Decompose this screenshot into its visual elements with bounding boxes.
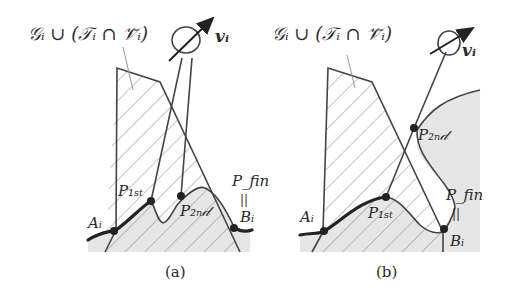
label-A-a: Aᵢ	[86, 214, 102, 232]
velocity-circle-a	[172, 27, 200, 53]
point-P2-a	[177, 192, 185, 200]
point-P2-b	[410, 124, 418, 132]
label-Pfin-a: P_fin	[231, 172, 269, 190]
hatched-set-b	[310, 68, 443, 252]
label-P2-a: P₂ₙ𝒹	[179, 202, 215, 220]
label-Pfin-b: P_fin	[445, 186, 483, 204]
point-P1-a	[147, 197, 155, 205]
figure-canvas: 𝒢ᵢ ∪ (𝒯ᵢ ∩ 𝒱̄ᵢ) vᵢ Aᵢ P₁ₛₜ P₂ₙ𝒹 P_fin ||…	[0, 0, 507, 300]
set-label-b: 𝒢ᵢ ∪ (𝒯ᵢ ∩ 𝒱̄ᵢ)	[272, 23, 392, 44]
velocity-label-a: vᵢ	[215, 26, 229, 46]
label-B-a: Bᵢ	[239, 208, 254, 226]
label-eq-a: ||	[240, 193, 248, 207]
label-P1-b: P₁ₛₜ	[367, 204, 393, 222]
label-P2-b: P₂ₙ𝒹	[417, 126, 453, 144]
caption-a: (a)	[165, 263, 186, 281]
label-B-b: Bᵢ	[449, 232, 464, 250]
point-B-a	[230, 224, 238, 232]
point-P1-b	[382, 193, 390, 201]
panel-b: 𝒢ᵢ ∪ (𝒯ᵢ ∩ 𝒱̄ᵢ) vᵢ Aᵢ P₁ₛₜ P₂ₙ𝒹 P_fin ||…	[272, 23, 483, 281]
velocity-label-b: vᵢ	[462, 40, 476, 60]
label-A-b: Aᵢ	[298, 208, 314, 226]
point-A-b	[320, 227, 328, 235]
set-label-a: 𝒢ᵢ ∪ (𝒯ᵢ ∩ 𝒱̄ᵢ)	[28, 23, 148, 44]
caption-b: (b)	[376, 263, 397, 281]
point-B-b	[440, 225, 448, 233]
label-eq-b: ||	[452, 207, 460, 221]
label-P1-a: P₁ₛₜ	[117, 182, 143, 200]
velocity-arrow-a	[169, 18, 213, 61]
panel-a: 𝒢ᵢ ∪ (𝒯ᵢ ∩ 𝒱̄ᵢ) vᵢ Aᵢ P₁ₛₜ P₂ₙ𝒹 P_fin ||…	[28, 18, 269, 281]
point-A-a	[110, 227, 118, 235]
